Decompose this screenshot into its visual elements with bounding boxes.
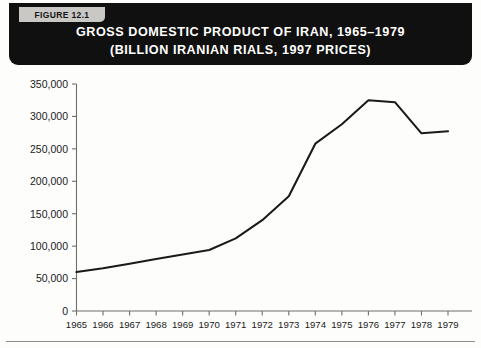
y-axis-tick-label: 350,000 [30, 78, 68, 90]
x-axis-tick-label: 1973 [278, 319, 299, 330]
figure-header-banner: FIGURE 12.1 GROSS DOMESTIC PRODUCT OF IR… [9, 3, 472, 65]
x-axis-tick-label: 1977 [384, 319, 405, 330]
figure-title: GROSS DOMESTIC PRODUCT OF IRAN, 1965–197… [9, 23, 472, 59]
figure-number-label: FIGURE 12.1 [35, 10, 90, 20]
x-axis-tick-label: 1978 [411, 319, 432, 330]
figure-title-line-2: (BILLION IRANIAN RIALS, 1997 PRICES) [9, 41, 472, 59]
y-axis-tick-labels: 350,000300,000250,000200,000150,000100,0… [30, 78, 68, 317]
y-axis-tick-label: 300,000 [30, 110, 68, 122]
y-axis-tick-label: 150,000 [30, 208, 68, 220]
x-axis-tick-label: 1966 [92, 319, 113, 330]
y-axis-tick-marks [72, 84, 77, 311]
chart-plot-area: 350,000300,000250,000200,000150,000100,0… [0, 66, 481, 348]
x-axis-tick-label: 1974 [305, 319, 327, 330]
x-axis-tick-label: 1965 [66, 319, 87, 330]
figure-container: FIGURE 12.1 GROSS DOMESTIC PRODUCT OF IR… [0, 0, 481, 348]
figure-title-line-1: GROSS DOMESTIC PRODUCT OF IRAN, 1965–197… [9, 23, 472, 41]
gdp-line-chart: 350,000300,000250,000200,000150,000100,0… [0, 66, 481, 348]
x-axis-tick-label: 1969 [172, 319, 193, 330]
x-axis-tick-label: 1975 [331, 319, 352, 330]
x-axis-tick-label: 1968 [145, 319, 166, 330]
y-axis-tick-label: 200,000 [30, 175, 68, 187]
x-axis-tick-labels: 1965196619671968196919701971197219731974… [66, 319, 459, 330]
x-axis-tick-marks [77, 311, 449, 316]
x-axis-tick-label: 1972 [252, 319, 273, 330]
x-axis-tick-label: 1976 [358, 319, 379, 330]
x-axis-tick-label: 1979 [437, 319, 458, 330]
x-axis-tick-label: 1971 [225, 319, 246, 330]
x-axis-tick-label: 1970 [199, 319, 220, 330]
x-axis-tick-label: 1967 [119, 319, 140, 330]
y-axis-tick-label: 250,000 [30, 143, 68, 155]
y-axis-tick-label: 50,000 [36, 272, 68, 284]
y-axis-tick-label: 0 [62, 305, 68, 317]
y-axis-tick-label: 100,000 [30, 240, 68, 252]
figure-number-badge: FIGURE 12.1 [19, 7, 105, 22]
gdp-data-line [77, 100, 449, 272]
